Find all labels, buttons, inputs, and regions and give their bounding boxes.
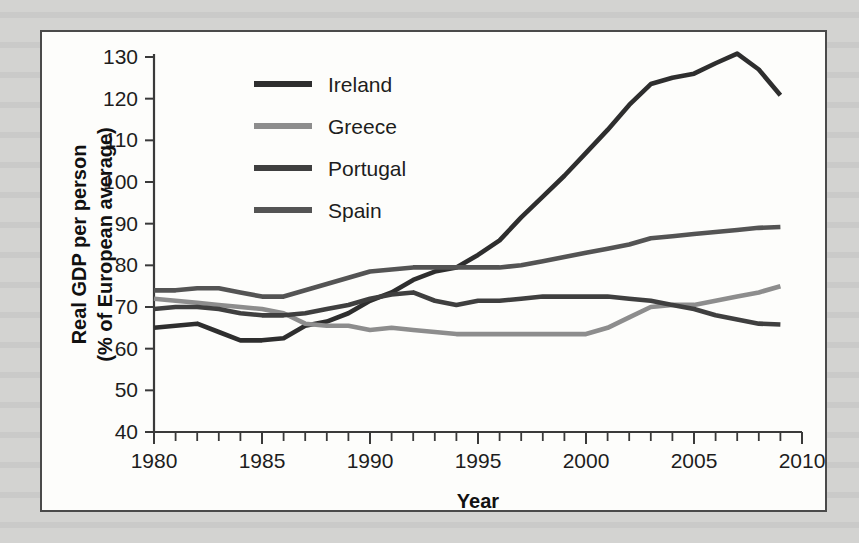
page-background: 4050607080901001101201301980198519901995… — [0, 0, 859, 543]
y-axis-title-line2: (% of European average) — [94, 127, 116, 362]
legend-label-portugal: Portugal — [328, 157, 406, 180]
legend-group: IrelandGreecePortugalSpain — [254, 73, 406, 222]
y-axis-tick-label: 70 — [115, 295, 138, 318]
figure-frame: 4050607080901001101201301980198519901995… — [40, 30, 827, 512]
y-axis-tick-label: 40 — [115, 420, 138, 443]
x-axis-tick-label: 2010 — [779, 449, 825, 472]
x-axis-tick-label: 2005 — [671, 449, 718, 472]
x-axis-tick-label: 2000 — [563, 449, 610, 472]
y-axis-tick-label: 130 — [103, 45, 138, 68]
y-axis-tick-label: 80 — [115, 253, 138, 276]
series-group — [154, 54, 780, 341]
x-axis-tick-label: 1980 — [131, 449, 178, 472]
y-axis-title-line1: Real GDP per person — [68, 145, 90, 345]
series-line-ireland — [154, 54, 780, 341]
gdp-line-chart: 4050607080901001101201301980198519901995… — [42, 32, 825, 510]
axes-group: 4050607080901001101201301980198519901995… — [103, 45, 825, 472]
x-axis-tick-label: 1985 — [239, 449, 286, 472]
legend-label-spain: Spain — [328, 199, 382, 222]
x-axis-tick-label: 1990 — [347, 449, 394, 472]
legend-label-greece: Greece — [328, 115, 397, 138]
y-axis-tick-label: 120 — [103, 87, 138, 110]
x-axis-tick-label: 1995 — [455, 449, 502, 472]
y-axis-tick-label: 60 — [115, 337, 138, 360]
y-axis-tick-label: 50 — [115, 378, 138, 401]
legend-label-ireland: Ireland — [328, 73, 392, 96]
y-axis-tick-label: 90 — [115, 212, 138, 235]
x-axis-title: Year — [457, 490, 499, 510]
